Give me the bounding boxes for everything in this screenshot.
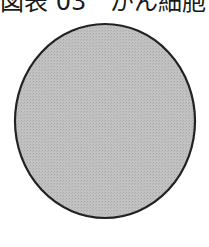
cell-circle bbox=[15, 24, 195, 218]
cell-diagram bbox=[0, 0, 209, 247]
